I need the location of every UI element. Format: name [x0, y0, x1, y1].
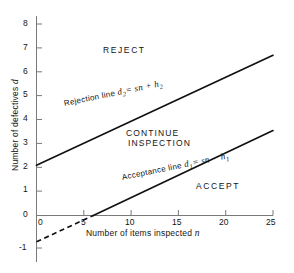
region-label-continue-inspection: CONTINUE INSPECTION: [126, 128, 191, 148]
chart-container: 8 7 6 5 4 3 2 1 0 -1 0 5 10 15 20 25 Num…: [0, 0, 294, 273]
y-tick-label: 8: [23, 18, 28, 28]
x-axis-title-text: Number of items inspected: [86, 228, 192, 238]
x-tick-label: 15: [172, 217, 181, 227]
y-axis-title-text: Number of defectives: [10, 87, 20, 171]
x-tick-label: 10: [125, 217, 134, 227]
region-label-continue-line2: INSPECTION: [128, 138, 191, 148]
region-label-continue-line1: CONTINUE: [126, 128, 191, 138]
y-tick-label: 6: [23, 66, 28, 76]
region-label-reject: REJECT: [103, 45, 146, 55]
x-tick-label: 20: [219, 217, 228, 227]
y-tick-label: 0: [23, 209, 28, 219]
y-tick-label: 5: [23, 89, 28, 99]
region-label-accept: ACCEPT: [196, 181, 240, 191]
y-tick-marks: [37, 24, 43, 248]
rejection-line-equation-rhs-sub: 2: [159, 83, 164, 91]
x-tick-marks: [37, 210, 274, 216]
y-axis-title: Number of defectives d: [10, 65, 20, 185]
y-tick-label: 7: [23, 42, 28, 52]
x-tick-label: 0: [38, 217, 43, 227]
y-tick-label: -1: [19, 242, 27, 252]
x-tick-label: 5: [81, 217, 86, 227]
y-tick-label: 1: [23, 184, 28, 194]
rejection-line: [37, 55, 274, 165]
x-tick-label: 25: [266, 217, 275, 227]
x-axis-title-symbol: n: [195, 228, 200, 238]
x-axis-title: Number of items inspected n: [86, 228, 200, 238]
y-tick-label: 2: [23, 161, 28, 171]
y-axis-title-symbol: d: [10, 79, 20, 84]
y-tick-label: 4: [23, 113, 28, 123]
y-tick-label: 3: [23, 137, 28, 147]
